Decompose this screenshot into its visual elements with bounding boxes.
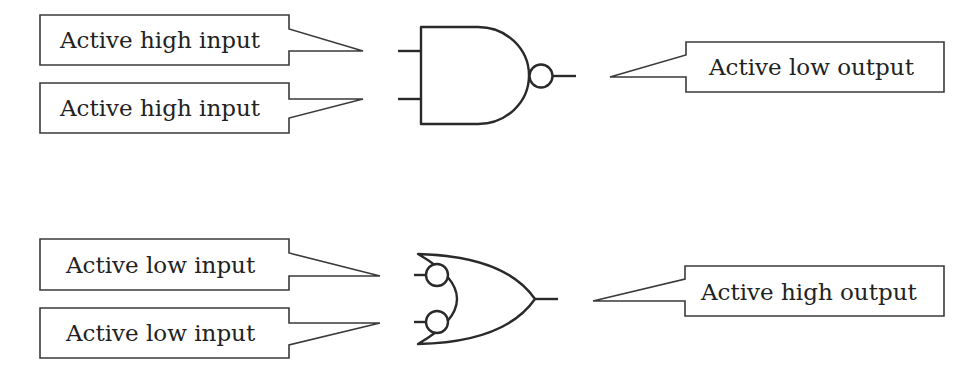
- nand-input-callout-1: Active high input: [40, 15, 363, 65]
- callout-label: Active high output: [700, 279, 917, 305]
- nand-body: [421, 27, 529, 124]
- callout-label: Active high input: [59, 27, 261, 53]
- callout-label: Active low input: [65, 320, 256, 346]
- callout-label: Active low output: [708, 54, 915, 80]
- or-output-callout: Active high output: [593, 266, 944, 316]
- callout-label: Active low input: [65, 252, 256, 278]
- nand-output-callout: Active low output: [610, 42, 944, 92]
- nand-section: Active high input Active high input Acti…: [40, 15, 944, 133]
- or-input-callout-2: Active low input: [40, 308, 380, 358]
- or-gate-icon: [414, 254, 558, 344]
- nand-gate-icon: [398, 27, 576, 124]
- or-section: Active low input Active low input Active…: [40, 239, 944, 358]
- inversion-bubble-icon: [426, 311, 448, 333]
- inversion-bubble-icon: [530, 65, 553, 88]
- callout-label: Active high input: [59, 95, 261, 121]
- nand-input-callout-2: Active high input: [40, 83, 363, 133]
- or-input-callout-1: Active low input: [40, 239, 380, 290]
- inversion-bubble-icon: [426, 264, 448, 286]
- logic-gate-diagram: Active high input Active high input Acti…: [0, 0, 978, 386]
